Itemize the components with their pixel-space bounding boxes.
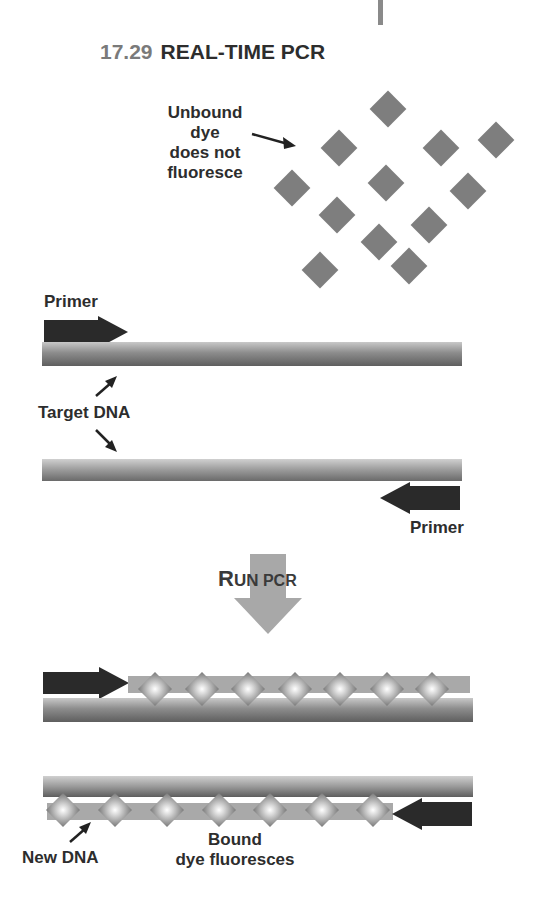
bound-dye-diamond-icon — [253, 793, 287, 827]
bound-dye-diamond-icon — [150, 793, 184, 827]
unbound-dye-label: Unbound dye does not fluoresce — [150, 103, 260, 183]
bound-dye-diamond-icon — [305, 793, 339, 827]
target-dna-label: Target DNA — [38, 403, 130, 423]
pointer-arrow-down-icon — [92, 428, 122, 454]
unbound-dye-line1: Unbound — [150, 103, 260, 123]
top-connector-bar — [378, 0, 383, 25]
bound-dye-line1: Bound — [150, 830, 320, 850]
unbound-dye-diamond-icon — [370, 91, 407, 128]
run-pcr-arrow-icon — [234, 598, 302, 634]
unbound-dye-diamond-icon — [478, 122, 515, 159]
figure-title-text: REAL-TIME PCR — [161, 40, 326, 63]
unbound-dye-diamond-icon — [274, 170, 311, 207]
new-dna-pointer-arrow-icon — [66, 820, 96, 844]
figure-number: 17.29 — [100, 40, 153, 63]
bound-dye-line2: dye fluoresces — [150, 850, 320, 870]
run-pcr-pcr: PCR — [258, 572, 296, 589]
new-dna-label: New DNA — [22, 848, 99, 868]
pointer-arrow-icon — [250, 128, 300, 152]
primer-label-bottom: Primer — [410, 518, 464, 538]
bound-dye-diamond-icon — [356, 793, 390, 827]
unbound-dye-diamond-icon — [423, 130, 460, 167]
bound-dye-diamond-icon — [202, 793, 236, 827]
unbound-dye-diamond-icon — [361, 224, 398, 261]
unbound-dye-diamond-icon — [321, 130, 358, 167]
target-dna-strand-bottom — [42, 459, 462, 481]
bound-dye-label: Bound dye fluoresces — [150, 830, 320, 870]
template-strand-bottom — [43, 776, 473, 797]
bound-dye-diamond-icon — [98, 793, 132, 827]
pointer-arrow-up-icon — [92, 374, 122, 398]
unbound-dye-diamond-icon — [302, 252, 339, 289]
run-pcr-label: RUN PCR — [218, 566, 297, 592]
unbound-dye-diamond-icon — [450, 173, 487, 210]
unbound-dye-diamond-icon — [411, 207, 448, 244]
unbound-dye-line3: does not — [150, 143, 260, 163]
unbound-dye-line2: dye — [150, 123, 260, 143]
figure-title: 17.29REAL-TIME PCR — [100, 40, 325, 64]
unbound-dye-diamond-icon — [319, 197, 356, 234]
unbound-dye-line4: fluoresce — [150, 163, 260, 183]
unbound-dye-diamond-icon — [368, 165, 405, 202]
primer-label-top: Primer — [44, 292, 98, 312]
run-pcr-un: UN — [234, 571, 259, 590]
unbound-dye-diamond-icon — [391, 248, 428, 285]
template-strand-top — [43, 698, 473, 722]
target-dna-strand-top — [42, 342, 462, 366]
run-pcr-initial: R — [218, 566, 234, 591]
